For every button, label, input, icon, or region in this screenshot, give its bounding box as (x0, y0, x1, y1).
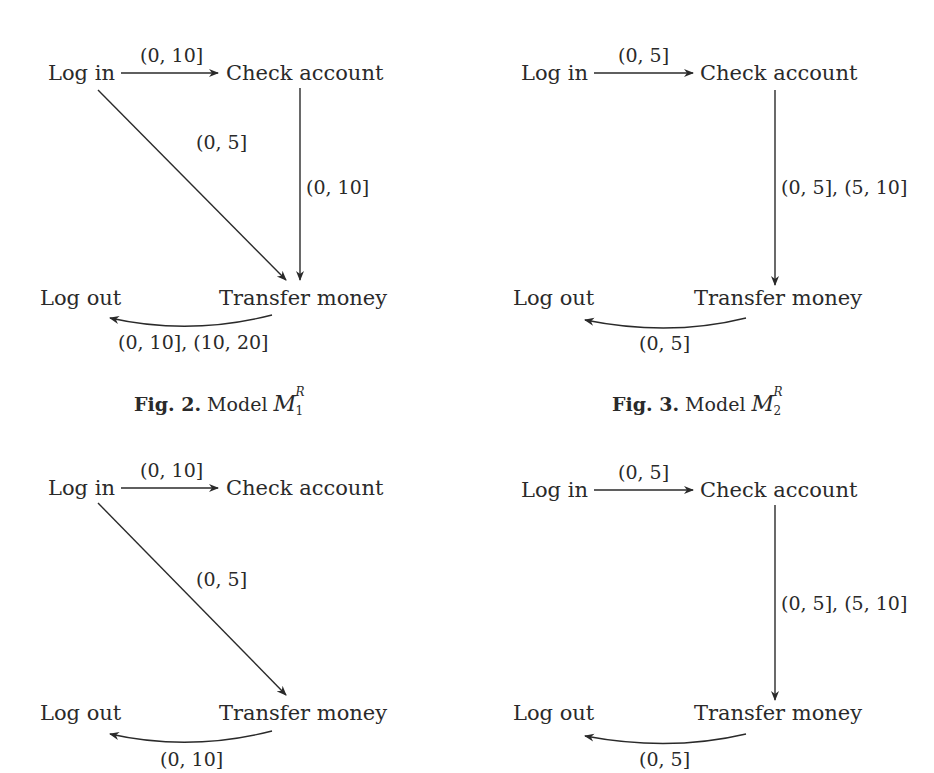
edge-label-transfer-logout: (0, 5] (639, 334, 690, 353)
figure-caption: Fig. 3. Model MR2 (612, 393, 774, 415)
caption-text: Model (207, 393, 267, 415)
edge-transfer-logout (110, 731, 272, 742)
node-log-out: Log out (40, 703, 121, 724)
edge-login-transfer (98, 90, 286, 280)
edge-transfer-logout (110, 315, 272, 326)
edge-transfer-logout (585, 734, 746, 744)
node-check-account: Check account (700, 63, 857, 84)
edge-label-transfer-logout: (0, 5] (639, 750, 690, 769)
node-check-account: Check account (226, 478, 383, 499)
diagram-edges (0, 0, 934, 773)
caption-label: Fig. 3. (612, 393, 679, 415)
node-transfer-money: Transfer money (694, 288, 862, 309)
edge-label-login-check: (0, 10] (140, 461, 203, 480)
edge-label-login-check: (0, 5] (618, 463, 669, 482)
node-transfer-money: Transfer money (219, 703, 387, 724)
edge-label-check-transfer: (0, 5], (5, 10] (781, 178, 907, 197)
edge-label-login-check: (0, 5] (618, 46, 669, 65)
edge-label-check-transfer: (0, 10] (306, 178, 369, 197)
caption-text: Model (685, 393, 745, 415)
model-symbol: MR2 (752, 393, 775, 415)
model-symbol: MR1 (274, 393, 297, 415)
figure-caption: Fig. 2. Model MR1 (134, 393, 296, 415)
node-check-account: Check account (226, 63, 383, 84)
node-log-out: Log out (40, 288, 121, 309)
node-log-out: Log out (513, 288, 594, 309)
node-transfer-money: Transfer money (694, 703, 862, 724)
edge-label-check-transfer: (0, 5], (5, 10] (781, 594, 907, 613)
node-log-out: Log out (513, 703, 594, 724)
edge-transfer-logout (585, 318, 746, 328)
edge-label-login-check: (0, 10] (140, 46, 203, 65)
node-log-in: Log in (48, 478, 115, 499)
node-transfer-money: Transfer money (219, 288, 387, 309)
node-log-in: Log in (48, 63, 115, 84)
edge-label-login-transfer: (0, 5] (196, 133, 247, 152)
edge-label-transfer-logout: (0, 10], (10, 20] (118, 333, 269, 352)
edge-login-transfer (98, 503, 286, 695)
node-check-account: Check account (700, 480, 857, 501)
node-log-in: Log in (521, 480, 588, 501)
node-log-in: Log in (521, 63, 588, 84)
edge-label-login-transfer: (0, 5] (196, 570, 247, 589)
edge-label-transfer-logout: (0, 10] (160, 750, 223, 769)
caption-label: Fig. 2. (134, 393, 201, 415)
